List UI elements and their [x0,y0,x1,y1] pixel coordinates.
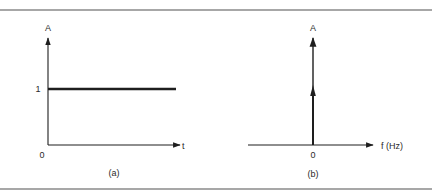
panel-b-x-label: f (Hz) [381,141,403,151]
panel-b: A f (Hz) 0 (b) [248,23,403,179]
figure: A t 0 1 (a) A f (Hz) 0 (b) [0,0,432,193]
panel-a-origin-label: 0 [39,150,44,160]
panel-b-caption: (b) [308,169,319,179]
panel-a-caption: (a) [109,168,120,178]
panel-a-level-tick-label: 1 [35,84,40,94]
panel-a-y-label: A [45,23,51,33]
panel-b-origin-label: 0 [310,150,315,160]
panel-a-x-label: t [182,141,185,151]
panel-b-y-label: A [310,23,316,33]
panel-a: A t 0 1 (a) [35,23,185,178]
